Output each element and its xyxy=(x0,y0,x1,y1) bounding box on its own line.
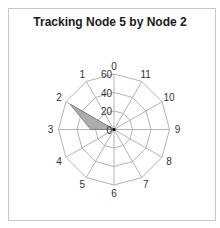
category-label: 2 xyxy=(56,92,62,103)
grid-spoke xyxy=(114,130,162,158)
grid-spoke xyxy=(114,130,142,178)
category-label: 10 xyxy=(163,92,175,103)
category-label: 9 xyxy=(175,124,181,135)
grid-spoke xyxy=(86,130,114,178)
category-label: 3 xyxy=(48,124,54,135)
category-label: 11 xyxy=(141,69,152,80)
category-label: 5 xyxy=(79,179,85,190)
category-label: 7 xyxy=(143,179,149,190)
category-label: 6 xyxy=(111,188,117,199)
grid-spoke xyxy=(114,81,142,129)
radar-chart: 020406001234567891011 xyxy=(0,0,220,228)
radial-tick-label: 0 xyxy=(106,125,112,136)
radial-tick-label: 20 xyxy=(101,106,113,117)
radial-tick-label: 40 xyxy=(101,88,113,99)
category-label: 0 xyxy=(111,61,117,72)
category-label: 1 xyxy=(79,69,85,80)
category-label: 4 xyxy=(56,156,62,167)
center-marker xyxy=(112,128,115,131)
grid-spoke xyxy=(114,102,162,130)
category-label: 8 xyxy=(166,156,172,167)
